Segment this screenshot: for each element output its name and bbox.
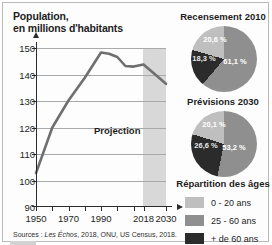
x-axis bbox=[36, 206, 172, 207]
y-tick-label: 130 bbox=[11, 96, 35, 107]
legend-item-60-plus: + de 60 ans bbox=[185, 232, 258, 245]
pie-2010-title: Recensement 2010 bbox=[175, 11, 271, 22]
legend-item-25-60: 25 - 60 ans bbox=[185, 214, 256, 227]
pie-2030-pct-young: 20,1 % bbox=[202, 120, 225, 129]
y-tick-label: 120 bbox=[11, 122, 35, 133]
legend-swatch-mid bbox=[185, 215, 204, 226]
y-tick-label: 100 bbox=[11, 175, 35, 186]
source-publication: Les Échos bbox=[45, 231, 78, 238]
pies-legend-panel: Recensement 2010 20,6 % 61,1 % 18,3 % Pr… bbox=[175, 6, 271, 243]
line-chart-panel: Population,en millions d'habitants bbox=[6, 6, 173, 243]
legend-label-mid: 25 - 60 ans bbox=[211, 216, 256, 226]
chart-title-line2: en millions d'habitants bbox=[13, 22, 123, 34]
y-tick-label: 140 bbox=[11, 69, 35, 80]
y-tick-label: 110 bbox=[11, 149, 35, 160]
x-tick-mark bbox=[101, 207, 102, 211]
x-tick-mark bbox=[85, 207, 86, 211]
legend-title: Répartition des âges bbox=[175, 178, 271, 189]
x-tick-mark bbox=[36, 207, 37, 211]
source-note: Sources : Les Échos, 2018, ONU, US Censu… bbox=[13, 231, 177, 238]
legend-swatch-young bbox=[185, 197, 204, 208]
pie-2010-pct-old: 18,3 % bbox=[192, 54, 215, 63]
legend-label-young: 0 - 20 ans bbox=[211, 198, 251, 208]
x-tick-label: 1950 bbox=[25, 213, 46, 224]
infographic-page: Population,en millions d'habitants bbox=[0, 0, 272, 245]
projection-annotation-label: Projection bbox=[94, 125, 140, 136]
y-tick-label: 90 bbox=[11, 202, 35, 213]
legend-item-0-20: 0 - 20 ans bbox=[185, 196, 251, 209]
y-axis bbox=[36, 42, 37, 207]
pie-2010-pct-young: 20,6 % bbox=[203, 35, 226, 44]
x-tick-label: 1990 bbox=[90, 213, 111, 224]
x-tick-mark bbox=[52, 207, 53, 211]
line-chart-plot-area: Projection bbox=[36, 48, 166, 207]
pie-2030-pct-mid: 53,2 % bbox=[222, 143, 245, 152]
source-prefix: Sources : bbox=[13, 231, 45, 238]
bottom-tab-marker bbox=[10, 241, 36, 245]
x-tick-mark bbox=[69, 207, 70, 211]
infographic-frame: Population,en millions d'habitants bbox=[2, 2, 269, 242]
legend-label-old: + de 60 ans bbox=[211, 234, 258, 244]
chart-title-line1: Population, bbox=[13, 10, 69, 22]
x-tick-mark bbox=[144, 207, 145, 211]
x-tick-label: 2018 bbox=[133, 213, 154, 224]
y-axis-arrow-icon bbox=[33, 32, 39, 38]
pie-2010-pct-mid: 61,1 % bbox=[223, 57, 246, 66]
pie-2030-pct-old: 26,6 % bbox=[194, 141, 217, 150]
x-tick-mark bbox=[166, 207, 167, 211]
page-title: Population,en millions d'habitants bbox=[13, 11, 123, 34]
x-tick-mark bbox=[134, 207, 135, 211]
legend-swatch-old bbox=[185, 233, 204, 244]
pie-2030-title: Prévisions 2030 bbox=[175, 96, 271, 107]
x-tick-label: 2030 bbox=[155, 213, 176, 224]
y-tick-label: 150 bbox=[11, 43, 35, 54]
x-tick-mark bbox=[117, 207, 118, 211]
source-rest: , 2018, ONU, US Census, 2018. bbox=[77, 231, 177, 238]
x-tick-label: 1970 bbox=[58, 213, 79, 224]
